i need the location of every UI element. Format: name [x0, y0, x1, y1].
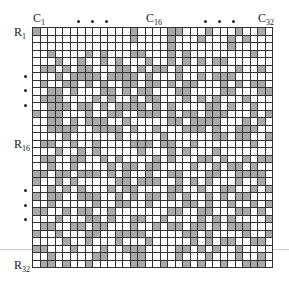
matrix-cell: [115, 170, 123, 178]
matrix-cell: [212, 87, 220, 95]
matrix-cell: [197, 252, 205, 260]
matrix-cell: [197, 192, 205, 200]
matrix-cell: [257, 35, 265, 43]
matrix-cell: [242, 117, 250, 125]
matrix-cell: [197, 50, 205, 58]
matrix-cell: [212, 162, 220, 170]
matrix-cell: [92, 245, 100, 253]
matrix-cell: [220, 237, 228, 245]
matrix-cell: [227, 177, 235, 185]
matrix-cell: [152, 65, 160, 73]
matrix-cell: [70, 132, 78, 140]
matrix-cell: [182, 215, 190, 223]
matrix-cell: [160, 185, 168, 193]
matrix-cell: [130, 222, 138, 230]
matrix-cell: [40, 132, 48, 140]
matrix-cell: [137, 95, 145, 103]
matrix-cell: [55, 207, 63, 215]
matrix-cell: [182, 237, 190, 245]
row-ellipsis-dot: [24, 218, 27, 221]
matrix-cell: [77, 42, 85, 50]
matrix-cell: [145, 102, 153, 110]
matrix-cell: [152, 80, 160, 88]
matrix-cell: [122, 72, 130, 80]
matrix-cell: [257, 140, 265, 148]
matrix-cell: [242, 57, 250, 65]
matrix-cell: [212, 95, 220, 103]
matrix-cell: [122, 215, 130, 223]
matrix-cell: [100, 260, 108, 268]
matrix-cell: [40, 170, 48, 178]
matrix-cell: [130, 57, 138, 65]
matrix-cell: [220, 177, 228, 185]
matrix-cell: [32, 72, 40, 80]
matrix-cell: [212, 140, 220, 148]
matrix-cell: [205, 155, 213, 163]
matrix-cell: [62, 110, 70, 118]
matrix-cell: [197, 200, 205, 208]
column-ellipsis-dot: [105, 20, 108, 23]
matrix-cell: [145, 155, 153, 163]
matrix-cell: [100, 252, 108, 260]
matrix-cell: [145, 200, 153, 208]
matrix-cell: [115, 200, 123, 208]
matrix-cell: [235, 50, 243, 58]
matrix-cell: [55, 102, 63, 110]
matrix-cell: [152, 185, 160, 193]
matrix-cell: [190, 260, 198, 268]
matrix-cell: [197, 147, 205, 155]
matrix-cell: [137, 140, 145, 148]
matrix-cell: [137, 185, 145, 193]
matrix-cell: [212, 110, 220, 118]
matrix-cell: [100, 147, 108, 155]
matrix-cell: [152, 207, 160, 215]
matrix-cell: [62, 140, 70, 148]
matrix-cell: [55, 57, 63, 65]
matrix-cell: [197, 72, 205, 80]
matrix-cell: [257, 222, 265, 230]
matrix-cell: [227, 95, 235, 103]
matrix-cell: [40, 177, 48, 185]
matrix-cell: [40, 200, 48, 208]
matrix-cell: [235, 252, 243, 260]
matrix-cell: [175, 155, 183, 163]
matrix-cell: [77, 140, 85, 148]
matrix-cell: [167, 147, 175, 155]
matrix-cell: [47, 110, 55, 118]
matrix-cell: [107, 260, 115, 268]
matrix-cell: [235, 125, 243, 133]
matrix-cell: [257, 230, 265, 238]
matrix-cell: [115, 80, 123, 88]
matrix-cell: [152, 252, 160, 260]
matrix-cell: [190, 230, 198, 238]
matrix-cell: [235, 80, 243, 88]
matrix-cell: [130, 245, 138, 253]
matrix-cell: [92, 132, 100, 140]
matrix-cell: [167, 260, 175, 268]
matrix-cell: [242, 95, 250, 103]
matrix-cell: [107, 35, 115, 43]
matrix-cell: [107, 237, 115, 245]
matrix-cell: [47, 80, 55, 88]
matrix-cell: [220, 252, 228, 260]
matrix-cell: [212, 27, 220, 35]
matrix-cell: [137, 117, 145, 125]
matrix-cell: [145, 125, 153, 133]
matrix-cell: [145, 117, 153, 125]
matrix-cell: [160, 237, 168, 245]
matrix-cell: [85, 42, 93, 50]
matrix-cell: [115, 207, 123, 215]
matrix-cell: [100, 95, 108, 103]
matrix-cell: [265, 57, 273, 65]
matrix-cell: [107, 185, 115, 193]
matrix-cell: [227, 132, 235, 140]
matrix-cell: [145, 237, 153, 245]
matrix-cell: [107, 177, 115, 185]
matrix-cell: [205, 177, 213, 185]
matrix-cell: [115, 147, 123, 155]
matrix-cell: [130, 200, 138, 208]
matrix-cell: [227, 57, 235, 65]
matrix-cell: [212, 237, 220, 245]
matrix-cell: [182, 162, 190, 170]
matrix-cell: [182, 50, 190, 58]
